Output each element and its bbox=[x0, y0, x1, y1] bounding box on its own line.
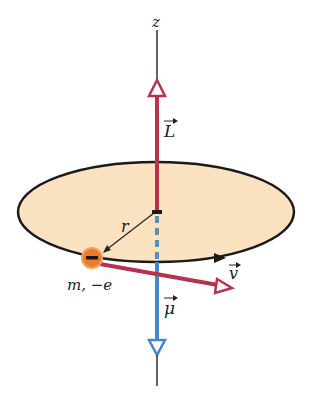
electron-sign-icon bbox=[86, 256, 98, 260]
orbit-diagram: z L μ r v m, −e bbox=[0, 0, 317, 401]
mu-arrowhead-icon bbox=[149, 340, 165, 355]
v-label-arrow-icon bbox=[236, 262, 241, 268]
L-label: L bbox=[163, 121, 175, 141]
mu-label-arrow-icon bbox=[173, 295, 178, 301]
r-label: r bbox=[121, 217, 130, 236]
L-label-arrow-icon bbox=[173, 118, 178, 124]
particle-label: m, −e bbox=[67, 276, 112, 294]
mu-label: μ bbox=[164, 298, 175, 318]
z-axis-label: z bbox=[151, 13, 160, 31]
L-arrowhead-icon bbox=[149, 80, 165, 96]
